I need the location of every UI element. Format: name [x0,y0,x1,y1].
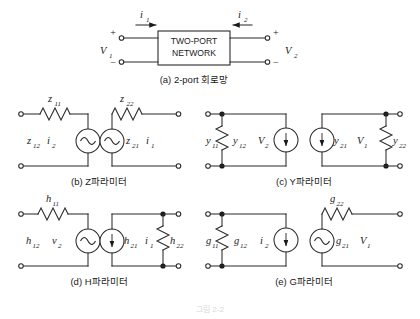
label-h21-i1: i [145,235,148,246]
h-terminal-right-bottom [176,264,181,269]
label-g12: g [234,235,239,246]
panel-e-g-parameter: g 11 g 12 i 2 g 22 g 21 V 1 (e) G파라미터 [206,193,403,287]
y-terminal-left-bottom [206,164,211,169]
label-y11: y [205,135,211,146]
resistor-h22 [157,226,169,250]
label-y12-V2-sub: 2 [265,142,269,150]
z-terminal-left-bottom [19,164,24,169]
label-z11: z [47,93,52,104]
h-terminal-left-top [19,212,24,217]
g-terminal-left-bottom [206,264,211,269]
caption-d: (d) H파라미터 [70,276,127,287]
plus-sign-left: + [110,27,116,38]
label-g12-i2-sub: 2 [265,242,269,250]
label-g22: g [330,193,335,204]
terminal-right-bottom [265,60,270,65]
label-h22-sub: 22 [177,242,185,250]
label-h21-i1-sub: 1 [150,242,154,250]
resistor-g22 [322,208,352,220]
label-z21-sub: 21 [132,142,139,150]
label-g12-sub: 12 [240,242,248,250]
label-g22-sub: 22 [337,200,345,208]
label-y11-sub: 11 [212,142,218,150]
label-g21-sub: 21 [342,242,349,250]
panel-a-two-port-network: TWO-PORT NETWORK + − + − V 1 V 2 i 1 i 2… [100,9,298,85]
label-h22: h [170,235,175,246]
resistor-z22 [112,108,142,120]
two-port-block-line2: NETWORK [172,48,216,58]
label-V2: V [285,45,293,56]
panel-d-h-parameter: h 11 h 12 v 2 h 21 i 1 h 22 (d) H파라미터 [19,193,184,287]
panel-c-y-parameter: y 11 y 12 V 2 y 21 V 1 y 22 (c) Y파라미터 [205,111,407,187]
label-z21-i1-sub: 1 [151,142,155,150]
y-terminal-right-top [398,112,403,117]
label-i2: i [238,9,241,20]
label-z12: z [26,135,31,146]
label-z11-sub: 11 [55,100,61,108]
label-y22: y [392,135,398,146]
label-i1-sub: 1 [146,16,150,24]
label-y12: y [232,135,238,146]
caption-b: (b) Z파라미터 [71,176,127,187]
label-y12-sub: 12 [239,142,247,150]
label-y21-V1-sub: 1 [364,142,368,150]
caption-e: (e) G파라미터 [275,276,333,287]
resistor-h11 [38,208,68,220]
label-V2-sub: 2 [294,52,298,60]
label-h12-v2-sub: 2 [58,242,62,250]
label-i2-sub: 2 [244,16,248,24]
label-h21-sub: 21 [131,242,138,250]
label-z21-i1: i [146,135,149,146]
label-y21-sub: 21 [340,142,347,150]
label-g11-sub: 11 [212,242,218,250]
caption-a: (a) 2-port 회로망 [160,74,229,85]
z-terminal-left-top [19,112,24,117]
g-terminal-right-top [398,212,403,217]
h-terminal-right-top [176,212,181,217]
label-z12-i2-sub: 2 [52,142,56,150]
label-h11-sub: 11 [53,200,59,208]
label-g21-V1-sub: 1 [367,242,371,250]
label-h12-v2: v [52,235,57,246]
two-port-parameter-figure: TWO-PORT NETWORK + − + − V 1 V 2 i 1 i 2… [0,0,420,319]
label-z21: z [125,135,130,146]
label-i1: i [140,9,143,20]
label-y21: y [333,135,339,146]
y-terminal-left-top [206,112,211,117]
caption-c: (c) Y파라미터 [276,176,332,187]
label-g21: g [336,235,341,246]
z-terminal-right-top [176,112,181,117]
label-h12: h [26,235,31,246]
h-terminal-left-bottom [19,264,24,269]
bottom-faint-caption: 그림 2-2 [196,304,224,314]
two-port-block-line1: TWO-PORT [171,36,218,46]
label-z12-sub: 12 [33,142,41,150]
y-terminal-right-bottom [398,164,403,169]
label-z22-sub: 22 [127,100,135,108]
g-terminal-right-bottom [398,264,403,269]
g-terminal-left-top [206,212,211,217]
terminal-left-bottom [119,60,124,65]
minus-sign-right: − [273,57,279,68]
panel-b-z-parameter: z 11 z 12 i 2 z 22 z 21 i 1 (b) Z파라미터 [19,93,181,187]
label-h11: h [46,193,51,204]
resistor-y22 [380,126,392,150]
label-h12-sub: 12 [33,242,41,250]
label-y22-sub: 22 [399,142,407,150]
label-V1: V [100,45,108,56]
label-V1-sub: 1 [109,52,113,60]
label-z22: z [119,93,124,104]
label-g12-i2: i [260,235,263,246]
resistor-z11 [40,108,70,120]
label-z12-i2: i [47,135,50,146]
terminal-left-top [119,36,124,41]
z-terminal-right-bottom [176,164,181,169]
label-g11: g [206,235,211,246]
terminal-right-top [265,36,270,41]
plus-sign-right: + [273,27,279,38]
label-h21: h [124,235,129,246]
